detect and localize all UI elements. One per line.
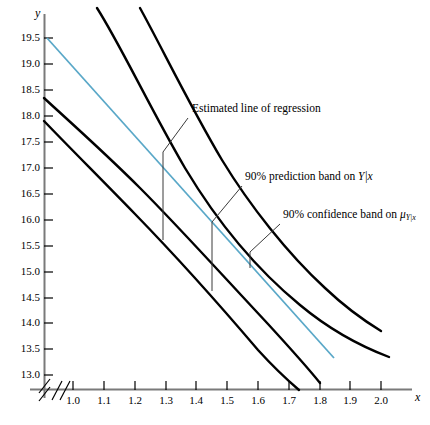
- prediction-band-leader: [212, 186, 242, 222]
- y-tick-label: 13.5: [2, 342, 40, 354]
- x-tick-label: 1.9: [335, 394, 365, 406]
- y-tick-label: 17.0: [2, 161, 40, 173]
- x-axis-title: x: [415, 390, 420, 405]
- x-tick-label: 1.7: [274, 394, 304, 406]
- y-tick-label: 16.0: [2, 213, 40, 225]
- y-tick-label: 19.0: [2, 57, 40, 69]
- y-tick-label: 14.0: [2, 316, 40, 328]
- confidence-band-leader: [250, 224, 280, 252]
- annotation-estimated-line-text: Estimated line of regression: [192, 102, 321, 114]
- x-tick-label: 2.0: [366, 394, 396, 406]
- y-axis-title: y: [35, 6, 40, 21]
- x-tick-label: 1.4: [181, 394, 211, 406]
- annotation-estimated-line: Estimated line of regression: [192, 102, 321, 114]
- x-tick-label: 1.3: [151, 394, 181, 406]
- annotation-confidence-band: 90% confidence band on μY|x: [283, 208, 416, 222]
- y-tick-label: 13.0: [2, 368, 40, 380]
- x-tick-label: 1.5: [212, 394, 242, 406]
- x-tick-label: 1.8: [305, 394, 335, 406]
- prediction-band-lower-curve: [44, 121, 299, 390]
- x-tick-label: 1.1: [89, 394, 119, 406]
- x-tick-label: 1.6: [243, 394, 273, 406]
- y-tick-label: 15.0: [2, 265, 40, 277]
- annotation-leader-lines: [163, 118, 280, 291]
- regression-bands-figure: y x 19.5 19.0 18.5 18.0 17.5 17.0 16.5 1…: [0, 0, 430, 425]
- annotation-prediction-band-variable: Y|x: [358, 170, 373, 182]
- band-curves-group: [44, 8, 389, 390]
- y-tick-label: 19.5: [2, 31, 40, 43]
- x-tick-label: 1.0: [58, 394, 88, 406]
- x-tick-label: 1.2: [120, 394, 150, 406]
- y-tick-label: 18.5: [2, 83, 40, 95]
- annotation-confidence-band-prefix: 90% confidence band on: [283, 208, 400, 220]
- estimated-regression-line: [47, 38, 334, 358]
- y-tick-label: 15.5: [2, 239, 40, 251]
- annotation-confidence-band-subscript: Y|x: [406, 213, 416, 222]
- y-tick-label: 16.5: [2, 187, 40, 199]
- y-tick-label: 14.5: [2, 291, 40, 303]
- y-tick-label: 18.0: [2, 109, 40, 121]
- y-tick-label: 17.5: [2, 135, 40, 147]
- annotation-prediction-band-prefix: 90% prediction band on: [245, 170, 358, 182]
- annotation-prediction-band: 90% prediction band on Y|x: [245, 170, 373, 182]
